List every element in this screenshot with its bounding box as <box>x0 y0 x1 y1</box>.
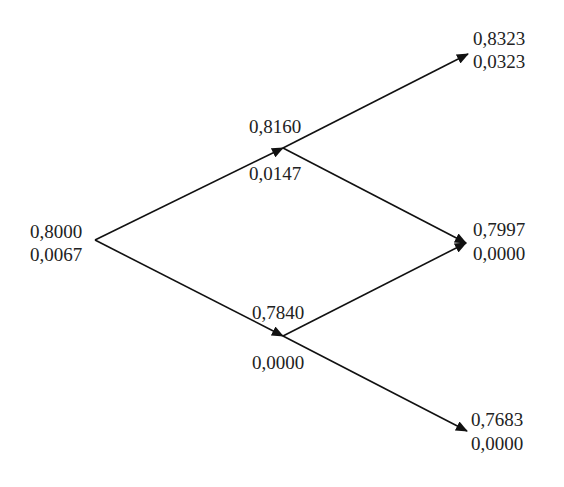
edge-root-up <box>95 148 283 240</box>
downdown-price: 0,7683 <box>471 409 523 431</box>
edge-down-updown <box>283 243 466 336</box>
down-price: 0,7840 <box>252 302 304 324</box>
updown-price: 0,7997 <box>473 219 525 241</box>
root-value: 0,0067 <box>30 244 82 266</box>
edge-down-downdown <box>283 336 467 431</box>
down-value: 0,0000 <box>252 352 304 374</box>
downdown-value: 0,0000 <box>471 433 523 455</box>
root-price: 0,8000 <box>30 221 82 243</box>
edge-up-upup <box>283 54 468 148</box>
edge-up-updown <box>283 148 466 243</box>
upup-price: 0,8323 <box>473 28 525 50</box>
up-price: 0,8160 <box>249 116 301 138</box>
up-value: 0,0147 <box>249 163 301 185</box>
upup-value: 0,0323 <box>473 51 525 73</box>
updown-value: 0,0000 <box>473 243 525 265</box>
